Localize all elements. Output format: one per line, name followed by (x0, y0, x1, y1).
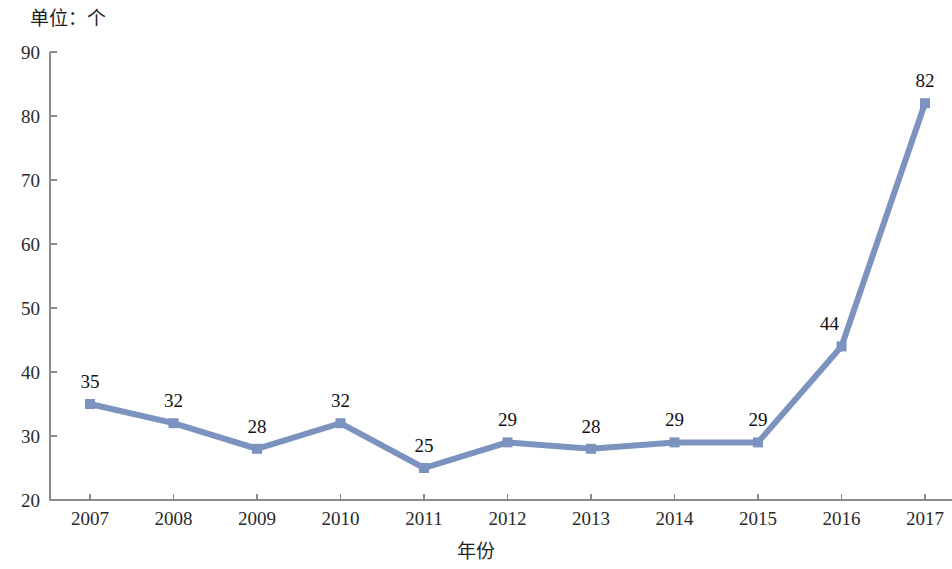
y-axis-tick-marks (50, 52, 57, 436)
x-axis-tick-label: 2008 (155, 508, 193, 529)
x-axis-tick-label: 2014 (656, 508, 695, 529)
x-axis-tick-label: 2007 (71, 508, 109, 529)
x-axis-tick-label: 2012 (489, 508, 527, 529)
x-axis-tick-label: 2016 (823, 508, 861, 529)
y-axis-tick-label: 30 (21, 426, 40, 447)
series-marker (670, 437, 680, 447)
y-axis-tick-label: 80 (21, 106, 40, 127)
series-marker (252, 444, 262, 454)
series-marker (169, 418, 179, 428)
x-axis-tick-label: 2009 (238, 508, 276, 529)
series-data-labels: 3532283225292829294482 (81, 70, 935, 456)
y-axis-tick-label: 40 (21, 362, 40, 383)
data-point-label: 25 (415, 435, 434, 456)
data-point-label: 32 (164, 390, 183, 411)
x-axis-tick-labels: 2007200820092010201120122013201420152016… (71, 508, 944, 529)
x-axis-tick-label: 2015 (739, 508, 777, 529)
data-point-label: 29 (498, 409, 517, 430)
axis-frame (50, 52, 952, 500)
x-axis-tick-label: 2013 (572, 508, 610, 529)
data-point-label: 44 (820, 313, 840, 334)
y-axis-tick-label: 20 (21, 490, 40, 511)
line-chart: 单位：个 2030405060708090 200720082009201020… (0, 0, 952, 569)
series-marker (336, 418, 346, 428)
chart-plot-area: 2030405060708090 20072008200920102011201… (0, 0, 952, 569)
data-point-label: 82 (916, 70, 935, 91)
x-axis-tick-marks (90, 494, 925, 500)
series-marker (753, 437, 763, 447)
y-axis-tick-label: 70 (21, 170, 40, 191)
x-axis-tick-label: 2017 (906, 508, 944, 529)
data-point-label: 29 (665, 409, 684, 430)
series-marker (586, 444, 596, 454)
y-axis-tick-label: 90 (21, 42, 40, 63)
x-axis-tick-label: 2011 (405, 508, 442, 529)
data-point-label: 29 (749, 409, 768, 430)
series-marker (503, 437, 513, 447)
y-axis-tick-label: 60 (21, 234, 40, 255)
y-axis-tick-labels: 2030405060708090 (21, 42, 40, 511)
series-marker (85, 399, 95, 409)
data-point-label: 32 (331, 390, 350, 411)
series-marker (920, 98, 930, 108)
x-axis-tick-label: 2010 (322, 508, 360, 529)
y-axis-tick-label: 50 (21, 298, 40, 319)
x-axis-title: 年份 (0, 536, 952, 563)
data-point-label: 28 (582, 416, 601, 437)
series-marker (837, 341, 847, 351)
series-marker (419, 463, 429, 473)
data-point-label: 35 (81, 371, 100, 392)
data-point-label: 28 (248, 416, 267, 437)
